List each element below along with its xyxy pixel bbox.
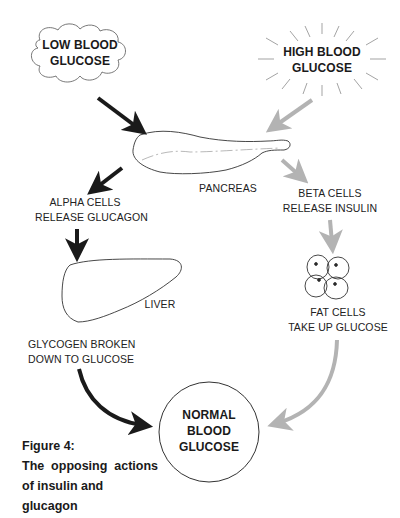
caption-word: opposing bbox=[51, 456, 107, 476]
fat-cells-label: FAT CELLS TAKE UP GLUCOSE bbox=[284, 305, 392, 335]
glycogen-label: GLYCOGEN BROKEN DOWN TO GLUCOSE bbox=[28, 337, 128, 367]
caption-title: Figure 4: bbox=[22, 436, 158, 456]
arrow-pancreas-to-alpha bbox=[96, 168, 122, 188]
beta-cells-line2: RELEASE INSULIN bbox=[280, 201, 380, 216]
liver-icon bbox=[62, 259, 181, 322]
pancreas-label: PANCREAS bbox=[188, 181, 268, 196]
high-glucose-line1: HIGH BLOOD bbox=[280, 44, 364, 60]
beta-cells-line1: BETA CELLS bbox=[280, 186, 380, 201]
normal-glucose-line2: BLOOD bbox=[169, 423, 249, 439]
pancreas-icon bbox=[133, 131, 290, 174]
arrow-low-to-pancreas bbox=[98, 98, 138, 128]
arrow-high-to-pancreas bbox=[275, 100, 312, 126]
glycogen-line2: DOWN TO GLUCOSE bbox=[28, 352, 128, 367]
high-glucose-label: HIGH BLOOD GLUCOSE bbox=[280, 44, 364, 76]
high-glucose-line2: GLUCOSE bbox=[280, 60, 364, 76]
fat-cells-line2: TAKE UP GLUCOSE bbox=[284, 320, 392, 335]
arrow-fat-to-normal bbox=[278, 340, 337, 423]
low-glucose-line1: LOW BLOOD bbox=[38, 37, 122, 53]
caption-word: The bbox=[22, 456, 44, 476]
caption-line2: The opposing actions bbox=[22, 456, 158, 476]
low-glucose-label: LOW BLOOD GLUCOSE bbox=[38, 37, 122, 69]
arrow-beta-to-fat bbox=[330, 220, 332, 243]
caption-line3: of insulin and glucagon bbox=[22, 476, 158, 516]
arrow-glycogen-to-normal bbox=[79, 369, 142, 425]
normal-glucose-label: NORMAL BLOOD GLUCOSE bbox=[169, 407, 249, 455]
normal-glucose-line3: GLUCOSE bbox=[169, 439, 249, 455]
arrow-pancreas-to-beta bbox=[282, 160, 300, 176]
figure-caption: Figure 4: The opposing actions of insuli… bbox=[22, 436, 158, 516]
alpha-cells-line2: RELEASE GLUCAGON bbox=[35, 210, 135, 225]
fat-cells-icon bbox=[305, 255, 349, 299]
liver-label: LIVER bbox=[140, 297, 180, 312]
beta-cells-label: BETA CELLS RELEASE INSULIN bbox=[280, 186, 380, 216]
alpha-cells-label: ALPHA CELLS RELEASE GLUCAGON bbox=[35, 195, 135, 225]
low-glucose-line2: GLUCOSE bbox=[38, 53, 122, 69]
caption-word: actions bbox=[114, 456, 158, 476]
glycogen-line1: GLYCOGEN BROKEN bbox=[28, 337, 128, 352]
alpha-cells-line1: ALPHA CELLS bbox=[35, 195, 135, 210]
fat-cells-line1: FAT CELLS bbox=[284, 305, 392, 320]
normal-glucose-line1: NORMAL bbox=[169, 407, 249, 423]
